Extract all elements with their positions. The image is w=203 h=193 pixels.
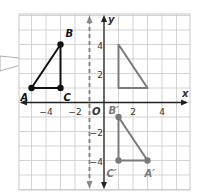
y-tick-label: 4 [97, 41, 103, 51]
vertex-point-c-prime [115, 157, 121, 163]
y-tick-label: 2 [97, 70, 103, 80]
vertex-label-c-prime: C′ [107, 168, 117, 179]
y-tick-label: −2 [90, 128, 103, 138]
x-axis-label: x [181, 88, 189, 99]
x-tick-label: 2 [130, 107, 136, 117]
vertex-label-a-prime: A′ [144, 168, 156, 179]
y-axis-label: y [108, 14, 115, 25]
vertex-label-c: C [64, 92, 72, 103]
vertex-point-c [57, 85, 63, 91]
vertex-label-b: B [66, 28, 74, 39]
vertex-point-b [57, 41, 63, 47]
origin-label: O [92, 106, 101, 117]
vertex-point-a-prime [144, 157, 150, 163]
vertex-label-a: A [20, 92, 29, 103]
x-tick-label: 4 [159, 107, 165, 117]
coordinate-plane-diagram: −4−22442−2−4OxyABCB′C′A′ [0, 0, 203, 193]
x-tick-label: −2 [68, 107, 81, 117]
vertex-label-b-prime: B′ [109, 105, 120, 116]
x-tick-label: −4 [39, 107, 53, 117]
vertex-point-a [28, 85, 34, 91]
y-tick-label: −4 [90, 157, 104, 167]
